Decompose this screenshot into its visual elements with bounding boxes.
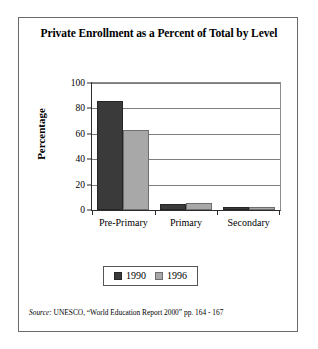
- bar-1996-secondary: [249, 207, 275, 210]
- x-tick-label: Primary: [170, 217, 202, 228]
- y-tick-mark: [87, 159, 92, 160]
- gridline: [92, 83, 280, 84]
- y-tick-label: 0: [80, 205, 85, 215]
- source-note: Source: UNESCO, “World Education Report …: [29, 308, 223, 317]
- chart-legend: 19901996: [103, 266, 198, 286]
- y-tick-label: 100: [71, 78, 85, 88]
- x-tick-mark: [92, 210, 93, 215]
- x-tick-label: Secondary: [228, 217, 270, 228]
- legend-item-1990: 1990: [114, 270, 146, 281]
- y-tick-label: 60: [76, 129, 86, 139]
- y-tick-mark: [87, 83, 92, 84]
- bar-1996-pre-primary: [123, 130, 149, 210]
- bar-1990-primary: [160, 204, 186, 210]
- legend-label: 1996: [167, 270, 187, 281]
- y-tick-mark: [87, 108, 92, 109]
- x-tick-mark: [279, 210, 280, 215]
- bar-1990-secondary: [223, 207, 249, 210]
- x-tick-label: Pre-Primary: [99, 217, 148, 228]
- y-tick-label: 20: [76, 180, 86, 190]
- y-tick-mark: [87, 184, 92, 185]
- y-axis-label: Percentage: [35, 94, 47, 174]
- legend-swatch-icon: [155, 272, 163, 280]
- source-label: Source:: [29, 308, 52, 317]
- figure-frame: Private Enrollment as a Percent of Total…: [18, 17, 298, 332]
- y-tick-label: 80: [76, 103, 86, 113]
- y-tick-mark: [87, 133, 92, 134]
- plot-area: 020406080100Pre-PrimaryPrimarySecondary: [91, 82, 281, 211]
- legend-swatch-icon: [114, 272, 122, 280]
- legend-item-1996: 1996: [155, 270, 187, 281]
- bar-1990-pre-primary: [97, 101, 123, 210]
- legend-label: 1990: [126, 270, 146, 281]
- bar-1996-primary: [186, 203, 212, 210]
- x-tick-mark: [217, 210, 218, 215]
- y-tick-label: 40: [76, 154, 86, 164]
- x-tick-mark: [155, 210, 156, 215]
- source-text: UNESCO, “World Education Report 2000” pp…: [54, 308, 224, 317]
